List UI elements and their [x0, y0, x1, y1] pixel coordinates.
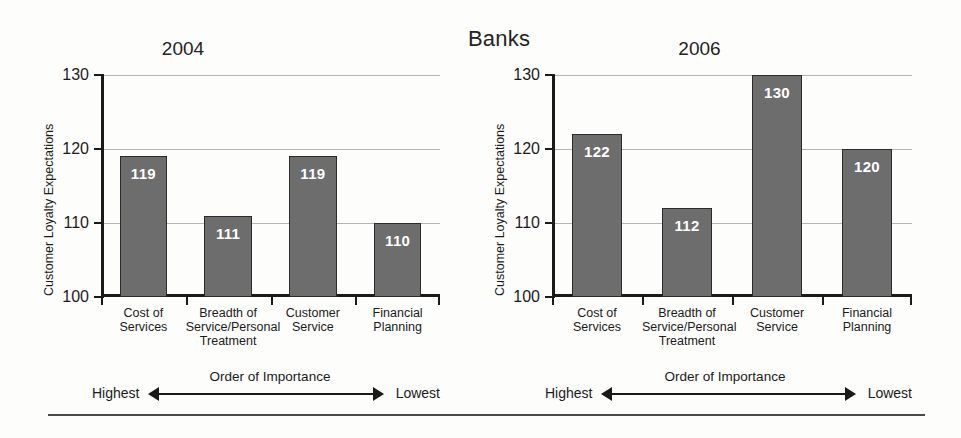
order-lowest-label: Lowest — [396, 385, 440, 401]
category-label-line: Service/Personal — [186, 320, 271, 334]
y-axis-tick-label: 100 — [62, 288, 89, 306]
bar-value-label: 130 — [753, 84, 801, 101]
y-axis-tick — [94, 222, 104, 224]
chart-title-2006: 2006 — [448, 38, 951, 60]
y-axis-label-2004: Customer Loyalty Expectations — [42, 124, 56, 296]
gridline — [552, 75, 912, 76]
category-label-line: Services — [552, 320, 642, 334]
order-of-importance-arrow-2004: Highest Lowest — [92, 385, 440, 403]
arrow-shaft — [611, 393, 846, 395]
plot-area-2004: 100110120130119111119110 — [101, 75, 440, 297]
category-label-line: Financial — [355, 306, 440, 320]
x-axis-category-label: CustomerService — [271, 306, 356, 334]
y-axis-tick-label: 130 — [513, 66, 540, 84]
y-axis-tick-label: 100 — [513, 288, 540, 306]
x-axis-end-tick — [910, 296, 912, 305]
bar[interactable]: 120 — [842, 149, 892, 297]
category-label-line: Breadth of — [642, 306, 732, 320]
chart-panel-2004: 2004 Customer Loyalty Expectations 10011… — [0, 0, 470, 438]
order-highest-label: Highest — [92, 385, 139, 401]
y-axis-tick — [545, 148, 555, 150]
x-axis-tick — [271, 296, 273, 305]
x-axis-title-2004: Order of Importance — [120, 369, 420, 384]
x-axis-tick — [186, 296, 188, 305]
y-axis-tick-label: 130 — [62, 66, 89, 84]
x-axis-category-label: Cost ofServices — [552, 306, 642, 334]
bar-value-label: 120 — [843, 158, 891, 175]
bar[interactable]: 119 — [120, 156, 167, 297]
x-axis-end-tick — [438, 296, 440, 305]
y-axis-tick — [545, 222, 555, 224]
y-axis-tick — [545, 74, 555, 76]
bar[interactable]: 111 — [204, 216, 251, 297]
x-axis-category-label: Breadth ofService/PersonalTreatment — [186, 306, 271, 348]
category-label-line: Customer — [732, 306, 822, 320]
category-label-line: Planning — [822, 320, 912, 334]
bar-value-label: 119 — [290, 165, 335, 182]
category-label-line: Services — [101, 320, 186, 334]
y-axis-label-2006: Customer Loyalty Expectations — [493, 124, 507, 296]
bar[interactable]: 112 — [662, 208, 712, 297]
order-of-importance-arrow-2006: Highest Lowest — [545, 385, 912, 403]
bar-value-label: 110 — [375, 232, 420, 249]
y-axis-line — [552, 75, 555, 297]
category-label-line: Cost of — [552, 306, 642, 320]
y-axis-tick — [94, 74, 104, 76]
x-axis-end-tick — [101, 296, 103, 305]
category-label-line: Planning — [355, 320, 440, 334]
bar[interactable]: 130 — [752, 75, 802, 297]
y-axis-tick — [94, 148, 104, 150]
x-axis-tick — [822, 296, 824, 305]
category-label-line: Treatment — [186, 334, 271, 348]
category-label-line: Service — [271, 320, 356, 334]
arrow-right-icon — [373, 387, 384, 401]
plot-area-2006: 100110120130122112130120 — [552, 75, 912, 297]
category-label-line: Customer — [271, 306, 356, 320]
category-label-line: Service/Personal — [642, 320, 732, 334]
x-axis-tick — [732, 296, 734, 305]
bar[interactable]: 119 — [289, 156, 336, 297]
y-axis-tick-label: 110 — [514, 214, 540, 232]
chart-title-2004: 2004 — [0, 38, 418, 60]
order-highest-label: Highest — [545, 385, 592, 401]
bar-value-label: 122 — [573, 143, 621, 160]
x-axis-end-tick — [552, 296, 554, 305]
chart-panel-2006: 2006 Customer Loyalty Expectations 10011… — [458, 0, 961, 438]
x-axis-tick — [355, 296, 357, 305]
y-axis-tick-label: 120 — [513, 140, 540, 158]
arrow-right-icon — [845, 387, 856, 401]
category-label-line: Breadth of — [186, 306, 271, 320]
category-label-line: Financial — [822, 306, 912, 320]
x-axis-category-label: FinancialPlanning — [822, 306, 912, 334]
bar-value-label: 119 — [121, 165, 166, 182]
bar[interactable]: 110 — [374, 223, 421, 297]
x-axis-category-label: Breadth ofService/PersonalTreatment — [642, 306, 732, 348]
x-axis-tick — [642, 296, 644, 305]
arrow-shaft — [158, 393, 374, 395]
order-lowest-label: Lowest — [868, 385, 912, 401]
bottom-divider — [48, 414, 925, 416]
category-label-line: Service — [732, 320, 822, 334]
bar-value-label: 112 — [663, 217, 711, 234]
gridline — [101, 75, 440, 76]
gridline — [101, 149, 440, 150]
y-axis-line — [101, 75, 104, 297]
y-axis-tick-label: 120 — [62, 140, 89, 158]
category-label-line: Treatment — [642, 334, 732, 348]
category-label-line: Cost of — [101, 306, 186, 320]
bar[interactable]: 122 — [572, 134, 622, 297]
x-axis-category-label: FinancialPlanning — [355, 306, 440, 334]
x-axis-category-label: Cost ofServices — [101, 306, 186, 334]
x-axis-category-label: CustomerService — [732, 306, 822, 334]
bar-value-label: 111 — [205, 225, 250, 242]
y-axis-tick-label: 110 — [63, 214, 89, 232]
figure-banks-customer-loyalty: Banks 2004 Customer Loyalty Expectations… — [0, 0, 961, 438]
x-axis-title-2006: Order of Importance — [575, 369, 875, 384]
